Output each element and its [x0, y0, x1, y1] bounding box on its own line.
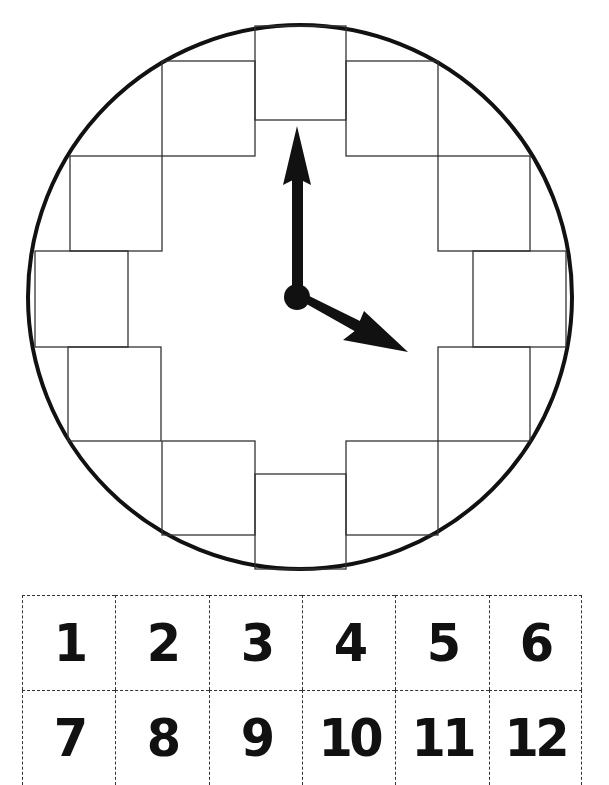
number-tile-11[interactable]: 11	[395, 690, 488, 785]
hour-hand[interactable]	[299, 291, 408, 352]
clock-face	[0, 0, 609, 590]
number-slot-3[interactable]	[473, 251, 566, 347]
clock-hands	[283, 126, 408, 352]
minute-hand[interactable]	[283, 126, 311, 298]
number-tile-1[interactable]: 1	[22, 595, 115, 690]
number-tile-6[interactable]: 6	[489, 595, 582, 690]
number-slot-7[interactable]	[162, 441, 255, 535]
number-tile-label: 1	[54, 613, 85, 673]
center-pivot	[284, 284, 310, 310]
number-tile-label: 11	[412, 708, 473, 768]
number-slot-2[interactable]	[438, 156, 530, 251]
number-tile-10[interactable]: 10	[302, 690, 395, 785]
number-slot-4[interactable]	[438, 347, 530, 441]
number-tile-label: 8	[147, 708, 178, 768]
number-tile-label: 2	[147, 613, 178, 673]
number-tile-8[interactable]: 8	[115, 690, 208, 785]
number-tile-label: 7	[54, 708, 85, 768]
number-slot-9[interactable]	[35, 251, 128, 347]
number-slot-10[interactable]	[70, 156, 162, 251]
number-slot-1[interactable]	[346, 61, 438, 156]
number-slot-11[interactable]	[162, 61, 255, 156]
number-tile-2[interactable]: 2	[115, 595, 208, 690]
number-slot-12[interactable]	[255, 26, 346, 120]
number-tile-label: 6	[520, 613, 551, 673]
number-tile-label: 12	[505, 708, 566, 768]
number-tile-3[interactable]: 3	[209, 595, 302, 690]
number-tile-grid: 123456789101112	[22, 595, 582, 775]
number-tile-9[interactable]: 9	[209, 690, 302, 785]
number-tile-4[interactable]: 4	[302, 595, 395, 690]
number-slot-5[interactable]	[346, 441, 438, 535]
number-tile-label: 3	[241, 613, 272, 673]
number-tile-5[interactable]: 5	[395, 595, 488, 690]
number-tile-12[interactable]: 12	[489, 690, 582, 785]
number-tile-label: 4	[334, 613, 365, 673]
number-slot-8[interactable]	[68, 347, 161, 441]
number-tile-label: 9	[241, 708, 272, 768]
number-slot-6[interactable]	[255, 474, 346, 569]
number-tile-label: 10	[319, 708, 380, 768]
number-tile-label: 5	[427, 613, 458, 673]
number-tile-7[interactable]: 7	[22, 690, 115, 785]
